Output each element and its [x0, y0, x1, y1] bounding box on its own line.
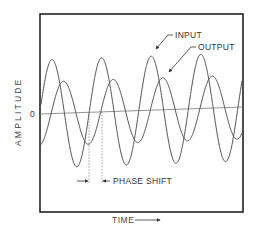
- input-leader-arrow-icon: [156, 35, 173, 49]
- phase-shift-diagram: PHASE SHIFT INPUT OUTPUT 0 AMPLITUDE TIM…: [0, 0, 256, 232]
- x-axis-label: TIME: [112, 215, 134, 225]
- input-label: INPUT: [175, 30, 202, 40]
- y-axis-label: AMPLITUDE: [13, 78, 23, 146]
- output-leader-arrow-icon: [169, 47, 196, 72]
- zero-tick-label: 0: [30, 109, 35, 119]
- zero-line: [40, 107, 243, 114]
- phase-shift-label: PHASE SHIFT: [113, 176, 172, 186]
- output-label: OUTPUT: [198, 42, 235, 52]
